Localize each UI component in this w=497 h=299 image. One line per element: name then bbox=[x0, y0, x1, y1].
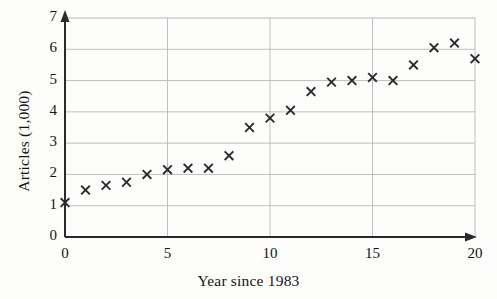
data-point-marker bbox=[184, 164, 193, 173]
y-tick-label: 5 bbox=[33, 71, 57, 88]
y-axis-arrow-icon bbox=[61, 10, 70, 22]
axes-group bbox=[61, 10, 478, 242]
y-tick-label: 7 bbox=[33, 8, 57, 25]
x-axis-title: Year since 1983 bbox=[0, 272, 497, 290]
x-tick-label: 5 bbox=[153, 245, 183, 262]
data-point-marker bbox=[245, 123, 254, 132]
gridlines-group bbox=[65, 18, 475, 237]
data-point-marker bbox=[122, 178, 131, 187]
y-tick-label: 4 bbox=[33, 102, 57, 119]
y-tick-label: 3 bbox=[33, 133, 57, 150]
y-tick-label: 0 bbox=[33, 227, 57, 244]
y-axis-title: Articles (1,000) bbox=[15, 71, 33, 211]
data-point-marker bbox=[102, 181, 111, 190]
data-point-marker bbox=[450, 39, 459, 48]
y-tick-label: 6 bbox=[33, 39, 57, 56]
data-point-marker bbox=[409, 61, 418, 70]
x-tick-label: 20 bbox=[460, 245, 490, 262]
data-point-marker bbox=[81, 186, 90, 195]
data-point-marker bbox=[307, 87, 316, 96]
data-point-marker bbox=[204, 164, 213, 173]
data-point-marker bbox=[327, 78, 336, 87]
y-tick-label: 1 bbox=[33, 196, 57, 213]
x-tick-label: 0 bbox=[50, 245, 80, 262]
y-tick-label: 2 bbox=[33, 164, 57, 181]
data-point-marker bbox=[430, 43, 439, 52]
data-point-marker bbox=[225, 151, 234, 160]
x-tick-label: 10 bbox=[255, 245, 285, 262]
x-tick-label: 15 bbox=[358, 245, 388, 262]
chart-figure: Articles (1,000) Year since 1983 0123456… bbox=[0, 0, 497, 299]
data-point-marker bbox=[286, 106, 295, 115]
